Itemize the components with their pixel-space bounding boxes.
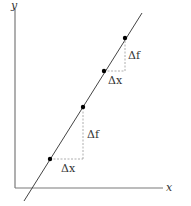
delta-f-label-1: Δf <box>87 129 99 140</box>
delta-x-label-2: Δx <box>108 75 122 86</box>
point-4 <box>123 36 127 40</box>
point-1 <box>48 157 52 161</box>
y-axis-label: y <box>11 0 17 11</box>
point-3 <box>102 69 106 73</box>
slope-diagram: y x Δx Δf Δx Δf <box>0 0 191 206</box>
delta-x-label-1: Δx <box>61 163 75 174</box>
x-axis-label: x <box>166 182 172 193</box>
point-2 <box>81 105 85 109</box>
delta-f-label-2: Δf <box>128 50 140 61</box>
diagram-graphics <box>0 0 191 206</box>
